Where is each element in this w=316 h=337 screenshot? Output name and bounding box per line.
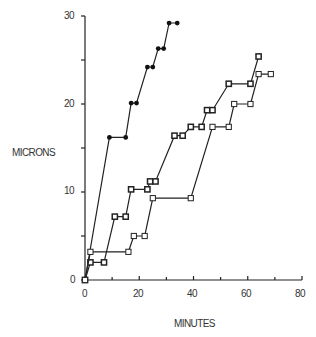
chart-canvas <box>0 0 316 337</box>
data-point-open-square <box>256 71 261 76</box>
data-point-open-square <box>210 124 215 129</box>
x-tick-label-80: 80 <box>295 288 305 299</box>
x-tick-label-0: 0 <box>82 288 87 299</box>
data-point-filled <box>175 21 180 26</box>
data-point-open-square <box>248 101 253 106</box>
series-line-open-squares-upper <box>85 57 259 281</box>
data-point-open-square <box>188 196 193 201</box>
data-point-filled <box>150 65 155 70</box>
data-point-filled <box>156 46 161 51</box>
data-point-open-square <box>148 179 153 184</box>
data-point-filled <box>129 101 134 106</box>
data-point-open-square <box>153 179 158 184</box>
y-tick-label-0: 0 <box>70 274 75 285</box>
x-tick-label-60: 60 <box>241 288 251 299</box>
data-point-open-square <box>256 54 261 59</box>
data-point-open-square <box>204 108 209 113</box>
data-point-open-square <box>226 81 231 86</box>
data-point-open-square <box>248 81 253 86</box>
data-point-open-square <box>150 196 155 201</box>
data-point-filled <box>161 46 166 51</box>
data-point-open-square <box>131 233 136 238</box>
data-point-open-square <box>142 233 147 238</box>
data-point-open-square <box>112 214 117 219</box>
data-point-filled <box>123 135 128 140</box>
x-tick-label-20: 20 <box>133 288 143 299</box>
data-point-open-square <box>268 71 273 76</box>
data-point-filled <box>145 65 150 70</box>
data-point-open-square <box>180 133 185 138</box>
axes <box>81 16 302 280</box>
data-point-filled <box>107 135 112 140</box>
data-point-open-square <box>232 101 237 106</box>
data-point-open-square <box>188 124 193 129</box>
y-axis-label: MICRONS <box>12 147 55 158</box>
data-point-filled <box>167 21 172 26</box>
y-tick-label-20: 20 <box>64 98 74 109</box>
series-line-open-squares-lower <box>85 74 271 280</box>
series-layer <box>82 21 273 283</box>
data-point-filled <box>134 101 139 106</box>
data-point-open-square <box>88 249 93 254</box>
data-point-open-square <box>226 124 231 129</box>
data-point-open-square <box>145 187 150 192</box>
data-point-open-square <box>210 108 215 113</box>
data-point-open-square <box>199 124 204 129</box>
data-point-open-square <box>101 260 106 265</box>
series-line-filled-diamonds <box>85 23 177 280</box>
x-tick-label-40: 40 <box>187 288 197 299</box>
data-point-open-square <box>123 214 128 219</box>
y-tick-label-30: 30 <box>64 10 74 21</box>
data-point-open-square <box>129 187 134 192</box>
data-point-open-square <box>82 277 87 282</box>
data-point-open-square <box>172 133 177 138</box>
data-point-open-square <box>126 249 131 254</box>
x-axis-label: MINUTES <box>174 318 215 329</box>
y-tick-label-10: 10 <box>64 185 74 196</box>
